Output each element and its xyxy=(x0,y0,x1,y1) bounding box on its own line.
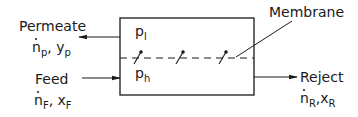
membrane-leader-line xyxy=(236,21,292,57)
permeate-flow-symbol: n xyxy=(32,39,41,55)
permeate-label: Permeate xyxy=(19,19,86,33)
high-pressure-label: ph xyxy=(135,66,150,82)
low-pressure-symbol: p xyxy=(135,23,144,39)
high-pressure-subscript: h xyxy=(144,73,150,84)
reject-flow-subscript: R xyxy=(309,98,316,109)
low-pressure-label: pl xyxy=(135,24,147,40)
permeate-variables: np, yp xyxy=(32,40,71,56)
reject-comp-symbol: x xyxy=(320,90,328,106)
feed-comp-symbol: x xyxy=(58,92,66,108)
feed-label: Feed xyxy=(35,72,68,86)
reject-variables: nR,xR xyxy=(300,91,336,107)
reject-comp-subscript: R xyxy=(329,98,336,109)
permeate-separator: , xyxy=(47,39,56,55)
feed-flow-symbol: n xyxy=(34,92,43,108)
membrane-label: Membrane xyxy=(269,5,344,19)
low-pressure-subscript: l xyxy=(144,31,147,42)
permeation-arrows xyxy=(134,51,227,64)
feed-comp-subscript: F xyxy=(66,100,72,111)
reject-flow-symbol: n xyxy=(300,90,309,106)
high-pressure-symbol: p xyxy=(135,65,144,81)
permeate-flow-subscript: p xyxy=(41,47,47,58)
feed-separator: , xyxy=(49,92,58,108)
reject-label: Reject xyxy=(300,70,343,84)
feed-flow-subscript: F xyxy=(43,100,49,111)
permeate-comp-subscript: p xyxy=(64,47,70,58)
feed-variables: nF, xF xyxy=(34,93,72,109)
